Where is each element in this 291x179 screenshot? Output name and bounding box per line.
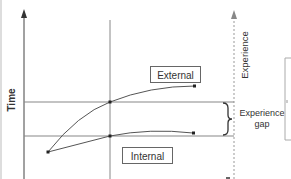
gap-label-line2: gap (254, 119, 269, 129)
external-label-box: External (151, 67, 201, 83)
internal-label: Internal (131, 151, 164, 162)
experience-gap-diagram: External Internal Time Experience Experi… (0, 0, 291, 179)
arrow-up-dashed-icon (231, 10, 237, 19)
gap-label-line1: Experience (239, 108, 284, 118)
experience-axis-label: Experience (239, 31, 250, 79)
external-label: External (157, 70, 194, 81)
experience-axis (231, 10, 237, 179)
arrow-up-icon (21, 9, 27, 18)
internal-label-box: Internal (123, 148, 173, 164)
right-bracket (285, 58, 291, 140)
time-axis-label: Time (6, 88, 17, 112)
time-axis (21, 9, 27, 179)
external-curve (48, 85, 196, 153)
start-point (47, 151, 50, 154)
gap-brace-icon (223, 103, 232, 135)
